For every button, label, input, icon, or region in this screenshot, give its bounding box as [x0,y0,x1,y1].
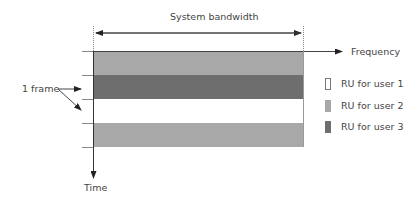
time-label: Time [84,182,107,193]
system-bandwidth-label: System bandwidth [170,11,259,22]
legend-swatch-user-1 [325,78,331,90]
frame-label: 1 frame [22,83,59,94]
legend-label-user-2: RU for user 2 [341,100,403,111]
legend-label-user-1: RU for user 1 [341,78,403,89]
legend-label-user-3: RU for user 3 [341,121,403,132]
legend-swatch-user-3 [325,121,331,133]
frequency-label: Frequency [351,46,400,57]
legend-swatch-user-2 [325,100,331,112]
